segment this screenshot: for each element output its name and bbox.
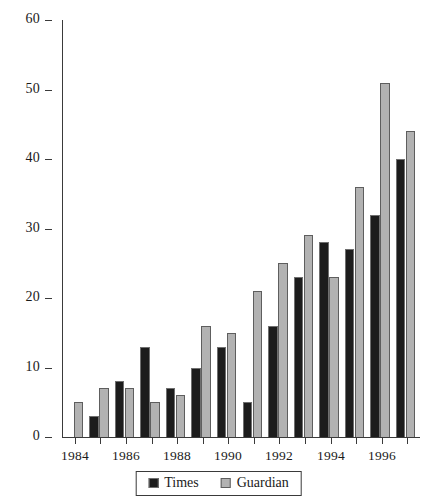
legend-label-times: Times	[164, 475, 199, 491]
x-tick-mark-1994	[331, 438, 332, 444]
x-tick-mark-1993	[305, 438, 306, 444]
bar-times-1992	[268, 326, 278, 437]
bar-times-1996	[370, 215, 380, 437]
bar-guardian-1985	[99, 388, 109, 437]
bar-guardian-1995	[355, 187, 365, 437]
bar-guardian-1986	[125, 388, 135, 437]
y-tick-mark	[45, 298, 52, 299]
bar-times-1991	[243, 402, 253, 437]
bar-guardian-1993	[304, 235, 314, 437]
y-tick-40: 40	[0, 159, 62, 160]
chart-legend: Times Guardian	[135, 471, 302, 496]
x-tick-mark-1990	[228, 438, 229, 444]
y-tick-label: 0	[33, 428, 40, 444]
y-tick-mark	[45, 368, 52, 369]
x-tick-label-1994: 1994	[317, 448, 345, 464]
bar-times-1995	[345, 249, 355, 437]
bar-times-1989	[191, 368, 201, 438]
legend-item-times: Times	[148, 475, 199, 491]
x-tick-mark-1991	[254, 438, 255, 444]
bar-guardian-1989	[201, 326, 211, 437]
legend-label-guardian: Guardian	[237, 475, 289, 491]
black-square-icon	[148, 478, 158, 488]
y-tick-60: 60	[0, 20, 62, 21]
y-tick-mark	[45, 159, 52, 160]
x-tick-mark-1987	[152, 438, 153, 444]
bar-guardian-1991	[253, 291, 263, 437]
x-tick-label-1990: 1990	[214, 448, 242, 464]
y-tick-0: 0	[0, 437, 62, 438]
y-tick-mark	[45, 229, 52, 230]
bar-times-1993	[294, 277, 304, 437]
x-tick-mark-1985	[100, 438, 101, 444]
x-tick-label-1984: 1984	[61, 448, 89, 464]
legend-item-guardian: Guardian	[221, 475, 289, 491]
y-tick-label: 20	[26, 289, 40, 305]
y-tick-label: 30	[26, 220, 40, 236]
bar-times-1994	[319, 242, 329, 437]
y-tick-label: 50	[26, 81, 40, 97]
bar-times-1997	[396, 159, 406, 437]
bar-guardian-1997	[406, 131, 416, 437]
plot-area	[62, 20, 420, 437]
bar-guardian-1990	[227, 333, 237, 437]
x-tick-mark-1996	[382, 438, 383, 444]
y-tick-label: 10	[26, 359, 40, 375]
x-tick-mark-1995	[356, 438, 357, 444]
x-tick-mark-1997	[407, 438, 408, 444]
x-tick-label-1988: 1988	[163, 448, 191, 464]
x-axis-line	[62, 437, 420, 438]
x-tick-mark-1986	[126, 438, 127, 444]
gray-square-icon	[221, 478, 231, 488]
y-axis-ticks: 0102030405060	[0, 0, 62, 501]
y-tick-50: 50	[0, 90, 62, 91]
bar-guardian-1984	[74, 402, 84, 437]
x-tick-mark-1988	[177, 438, 178, 444]
x-tick-label-1986: 1986	[112, 448, 140, 464]
bar-times-1990	[217, 347, 227, 437]
y-tick-20: 20	[0, 298, 62, 299]
bar-chart: 0102030405060 19841986198819901992199419…	[0, 0, 437, 501]
bar-guardian-1987	[150, 402, 160, 437]
x-tick-mark-1984	[75, 438, 76, 444]
y-tick-mark	[45, 20, 52, 21]
bar-guardian-1996	[380, 83, 390, 437]
x-tick-label-1996: 1996	[368, 448, 396, 464]
x-tick-mark-1992	[279, 438, 280, 444]
y-tick-mark	[45, 437, 52, 438]
bar-guardian-1988	[176, 395, 186, 437]
y-tick-label: 40	[26, 150, 40, 166]
bar-guardian-1994	[329, 277, 339, 437]
x-tick-mark-1989	[203, 438, 204, 444]
bar-times-1985	[89, 416, 99, 437]
x-tick-label-1992: 1992	[265, 448, 293, 464]
y-tick-label: 60	[26, 11, 40, 27]
bar-times-1986	[115, 381, 125, 437]
y-tick-30: 30	[0, 229, 62, 230]
bar-times-1987	[140, 347, 150, 437]
bar-guardian-1992	[278, 263, 288, 437]
y-tick-mark	[45, 90, 52, 91]
bar-times-1988	[166, 388, 176, 437]
y-tick-10: 10	[0, 368, 62, 369]
